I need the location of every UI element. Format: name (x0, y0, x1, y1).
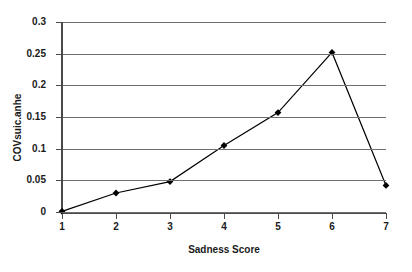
y-tick-label: 0.3 (32, 17, 46, 27)
grid-line (62, 22, 386, 23)
x-tick-mark (332, 213, 333, 219)
x-tick-mark (278, 213, 279, 219)
series-markers (59, 49, 390, 215)
x-tick-mark (386, 213, 387, 219)
x-tick-label: 7 (376, 222, 396, 232)
series-line (62, 52, 386, 211)
x-tick-label: 3 (160, 222, 180, 232)
y-tick-mark (56, 149, 63, 150)
y-tick-label: 0.05 (27, 175, 46, 185)
y-tick-mark (56, 85, 63, 86)
grid-line (62, 149, 386, 150)
grid-line (62, 85, 386, 86)
x-tick-label: 2 (106, 222, 126, 232)
x-tick-label: 1 (52, 222, 72, 232)
y-tick-mark (56, 22, 63, 23)
y-tick-mark (56, 117, 63, 118)
y-tick-label: 0.25 (27, 49, 46, 59)
x-tick-mark (224, 213, 225, 219)
y-tick-label: 0.2 (32, 80, 46, 90)
x-tick-mark (116, 213, 117, 219)
x-tick-mark (170, 213, 171, 219)
x-tick-label: 5 (268, 222, 288, 232)
y-tick-mark (56, 54, 63, 55)
data-point-marker (221, 142, 228, 149)
data-point-marker (383, 182, 390, 189)
data-point-marker (113, 190, 120, 197)
grid-line (62, 54, 386, 55)
x-tick-mark (62, 213, 63, 219)
line-chart-figure: COVsuic.anhe Sadness Score 00.050.10.150… (0, 0, 412, 272)
y-tick-label: 0 (40, 207, 46, 217)
x-tick-label: 6 (322, 222, 342, 232)
grid-line (62, 117, 386, 118)
x-tick-label: 4 (214, 222, 234, 232)
y-tick-label: 0.1 (32, 144, 46, 154)
y-tick-mark (56, 180, 63, 181)
grid-line (62, 180, 386, 181)
y-tick-label: 0.15 (27, 112, 46, 122)
